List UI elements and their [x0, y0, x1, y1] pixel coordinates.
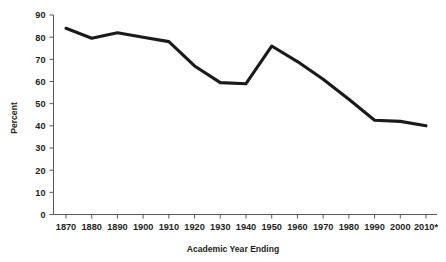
- y-axis: 0102030405060708090 Percent: [9, 10, 54, 220]
- x-tick-label: 1900: [133, 222, 153, 232]
- x-tick-label: 1930: [210, 222, 230, 232]
- x-tick-label: 1890: [107, 222, 127, 232]
- x-axis-title: Academic Year Ending: [187, 244, 280, 254]
- x-tick-label: 1950: [261, 222, 281, 232]
- x-tick-label: 1960: [287, 222, 307, 232]
- chart-container: 0102030405060708090 Percent 187018801890…: [0, 0, 446, 262]
- y-tick-label: 10: [35, 188, 45, 198]
- y-tick-label: 30: [35, 143, 45, 153]
- y-tick-label: 40: [35, 121, 45, 131]
- y-tick-label: 20: [35, 166, 45, 176]
- x-tick-label: 1970: [313, 222, 333, 232]
- x-tick-label: 1880: [81, 222, 101, 232]
- x-tick-label: 2000: [390, 222, 410, 232]
- y-tick-labels: 0102030405060708090: [35, 10, 45, 220]
- x-tick-label: 1990: [364, 222, 384, 232]
- data-series-group: [66, 28, 426, 126]
- y-tick-label: 60: [35, 77, 45, 87]
- x-tick-marks: [66, 215, 426, 219]
- y-tick-label: 0: [40, 210, 45, 220]
- x-tick-label: 1980: [339, 222, 359, 232]
- data-line-percent: [66, 28, 426, 126]
- x-tick-label: 1870: [56, 222, 76, 232]
- x-axis: 1870188018901900191019201930194019501960…: [54, 215, 439, 255]
- y-tick-marks: [50, 15, 54, 215]
- x-tick-labels: 1870188018901900191019201930194019501960…: [56, 222, 439, 232]
- x-tick-label: 1940: [236, 222, 256, 232]
- y-tick-label: 50: [35, 99, 45, 109]
- x-tick-label: 2010*: [414, 222, 438, 232]
- x-tick-label: 1910: [159, 222, 179, 232]
- y-tick-label: 70: [35, 55, 45, 65]
- x-tick-label: 1920: [184, 222, 204, 232]
- y-tick-label: 80: [35, 33, 45, 43]
- y-tick-label: 90: [35, 10, 45, 20]
- line-chart: 0102030405060708090 Percent 187018801890…: [0, 0, 446, 262]
- y-axis-title: Percent: [9, 102, 19, 134]
